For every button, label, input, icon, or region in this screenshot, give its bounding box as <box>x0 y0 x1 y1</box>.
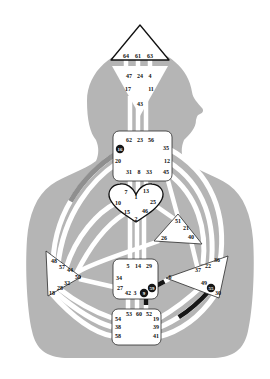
gate-27: 27 <box>117 285 123 291</box>
gate-2: 2 <box>135 216 138 222</box>
gate-15: 15 <box>124 209 130 215</box>
gate-37: 37 <box>195 267 201 273</box>
gate-62: 62 <box>126 137 132 143</box>
bodygraph-chart: 64 61 63 47 24 4 17 11 43 62 23 56 35 20… <box>0 0 270 379</box>
gate-10: 10 <box>115 200 121 206</box>
gate-14: 14 <box>135 263 141 269</box>
gate-39: 39 <box>153 324 159 330</box>
gate-58: 58 <box>115 333 121 339</box>
gate-47: 47 <box>126 73 132 79</box>
gate-35: 35 <box>163 145 169 151</box>
gate-25: 25 <box>150 199 156 205</box>
gate-60: 60 <box>136 311 142 317</box>
gate-3: 3 <box>134 290 137 296</box>
gate-55-activated: 55 <box>209 286 215 291</box>
gate-46: 46 <box>142 208 148 214</box>
gate-23: 23 <box>137 137 143 143</box>
gate-44: 44 <box>67 267 73 273</box>
gate-53: 53 <box>126 311 132 317</box>
gate-64: 64 <box>123 53 129 59</box>
gate-28: 28 <box>57 285 63 291</box>
gate-51: 51 <box>175 218 181 224</box>
gate-34: 34 <box>116 275 122 281</box>
gate-43: 43 <box>137 101 143 107</box>
gate-21: 21 <box>183 225 189 231</box>
gate-13: 13 <box>143 188 149 194</box>
gate-17: 17 <box>125 86 131 92</box>
gate-57: 57 <box>59 264 65 270</box>
gate-59-activated: 59 <box>150 286 156 291</box>
gate-20: 20 <box>115 158 121 164</box>
gate-49: 49 <box>201 280 207 286</box>
gate-52: 52 <box>146 311 152 317</box>
gate-19: 19 <box>153 316 159 322</box>
gate-24: 24 <box>137 73 143 79</box>
gate-54: 54 <box>115 316 121 322</box>
gate-22: 22 <box>205 263 211 269</box>
gate-11: 11 <box>148 86 154 92</box>
gate-8: 8 <box>138 169 141 175</box>
gate-18: 18 <box>49 290 55 296</box>
gate-5: 5 <box>127 263 130 269</box>
gate-7: 7 <box>125 189 128 195</box>
gate-38: 38 <box>115 324 121 330</box>
gate-61: 61 <box>135 53 141 59</box>
gate-12: 12 <box>164 158 170 164</box>
gate-48: 48 <box>51 258 57 264</box>
gate-63: 63 <box>147 53 153 59</box>
gate-50: 50 <box>75 274 81 280</box>
gate-56: 56 <box>148 137 154 143</box>
gate-36: 36 <box>214 257 220 263</box>
gate-16-activated: 16 <box>118 147 124 152</box>
gate-45: 45 <box>163 169 169 175</box>
gate-1: 1 <box>135 194 138 200</box>
gate-29: 29 <box>146 263 152 269</box>
gate-31: 31 <box>126 169 132 175</box>
gate-26: 26 <box>161 235 167 241</box>
gate-33: 33 <box>146 169 152 175</box>
gate-4: 4 <box>149 73 152 79</box>
gate-6: 6 <box>169 274 172 280</box>
gate-30: 30 <box>215 290 221 296</box>
gate-42: 42 <box>125 290 131 296</box>
gate-41: 41 <box>153 333 159 339</box>
gate-32: 32 <box>64 280 70 286</box>
gate-40: 40 <box>188 234 194 240</box>
